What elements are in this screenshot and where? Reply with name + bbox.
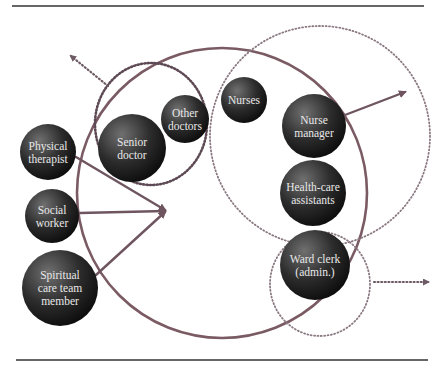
bubble-label: Other — [172, 107, 198, 119]
bubble-physical-therapist: Physicaltherapist — [20, 124, 76, 180]
social-worker-arrow — [80, 211, 165, 213]
bubble-label: Social — [38, 204, 67, 216]
bubble-label: Nurse — [300, 114, 327, 126]
bubble-label: Nurses — [228, 94, 260, 106]
bubble-ward-clerk: Ward clerk(admin.) — [280, 230, 350, 300]
bubble-label: Ward clerk — [290, 253, 341, 265]
bubble-nurses: Nurses — [221, 77, 267, 123]
bubble-label: assistants — [291, 194, 335, 206]
bubble-label: care team — [38, 282, 82, 294]
bubble-label: therapist — [28, 153, 68, 166]
bubble-label: Senior — [117, 136, 147, 148]
bubble-label: doctor — [117, 149, 147, 161]
bubble-spiritual-care-team-member: Spiritualcare teammember — [22, 250, 98, 326]
bubble-label: member — [41, 295, 79, 307]
bubble-social-worker: Socialworker — [25, 189, 79, 243]
bubble-label: Physical — [29, 140, 68, 153]
bubble-label: Spiritual — [40, 269, 80, 282]
spiritual-care-arrow — [96, 212, 165, 275]
bubbles-layer: PhysicaltherapistSocialworkerSpiritualca… — [20, 77, 350, 326]
bubble-label: (admin.) — [295, 266, 334, 279]
nurse-manager-outward-arrow — [345, 92, 405, 115]
bubble-senior-doctor: Seniordoctor — [98, 114, 166, 182]
bubble-label: manager — [294, 127, 334, 140]
bubble-label: Health-care — [286, 181, 340, 193]
bubble-label: doctors — [168, 120, 202, 132]
bubble-other-doctors: Otherdoctors — [161, 95, 209, 143]
doctors-outward-arrow — [71, 56, 108, 86]
bubble-health-care-assistants: Health-careassistants — [280, 160, 346, 226]
care-team-diagram: PhysicaltherapistSocialworkerSpiritualca… — [0, 0, 442, 365]
bubble-nurse-manager: Nursemanager — [282, 94, 346, 158]
bubble-label: worker — [36, 217, 69, 229]
